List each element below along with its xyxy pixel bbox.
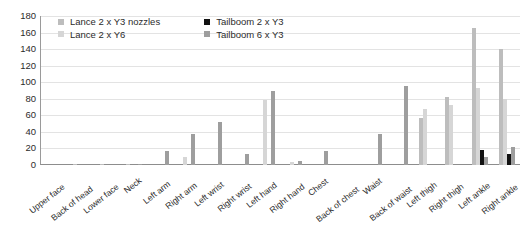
legend-item[interactable]: Tailboom 6 x Y3 xyxy=(204,30,283,40)
bar xyxy=(324,151,328,165)
bar xyxy=(449,105,453,165)
bar xyxy=(378,134,382,165)
bar-group xyxy=(493,16,520,165)
legend-item[interactable]: Tailboom 2 x Y3 xyxy=(204,17,283,27)
bar-chart: 180160140120100806040200 Upper faceBack … xyxy=(0,0,527,232)
bar xyxy=(423,109,427,165)
y-tick-label: 180 xyxy=(20,11,36,21)
bar xyxy=(511,147,515,165)
legend-label: Tailboom 2 x Y3 xyxy=(216,17,283,27)
bar-group xyxy=(467,16,494,165)
legend-label: Tailboom 6 x Y3 xyxy=(216,30,283,40)
legend-label: Lance 2 x Y3 nozzles xyxy=(70,17,160,27)
x-label-slot: Back of chest xyxy=(334,166,361,232)
legend-swatch-icon xyxy=(204,19,210,25)
bar xyxy=(191,134,195,165)
y-tick-label: 0 xyxy=(31,160,36,170)
bar xyxy=(138,164,142,165)
bar-group xyxy=(280,16,307,165)
y-tick-label: 140 xyxy=(20,44,36,54)
bar xyxy=(298,161,302,165)
y-tick-label: 100 xyxy=(20,77,36,87)
x-axis-labels: Upper faceBack of headLower faceNeckLeft… xyxy=(41,166,520,232)
bar-group xyxy=(440,16,467,165)
x-tick-label-text: Neck xyxy=(123,176,144,195)
y-tick-label: 60 xyxy=(25,111,36,121)
bar xyxy=(245,154,249,165)
legend-item[interactable]: Lance 2 x Y6 xyxy=(58,30,160,40)
x-tick-label: Right ankle xyxy=(494,169,527,202)
bar xyxy=(290,162,294,165)
bar-group xyxy=(360,16,387,165)
y-tick-label: 160 xyxy=(20,28,36,38)
legend-swatch-icon xyxy=(58,31,64,37)
x-label-slot: Left ankle xyxy=(467,166,494,232)
y-tick-label: 20 xyxy=(25,144,36,154)
chart-legend: Lance 2 x Y3 nozzlesTailboom 2 x Y3Lance… xyxy=(58,17,284,39)
x-tick-label: Neck xyxy=(128,169,149,188)
x-tick-label-text: Chest xyxy=(307,177,330,198)
y-tick-label: 40 xyxy=(25,127,36,137)
bar xyxy=(183,157,187,165)
x-label-slot: Right hand xyxy=(280,166,307,232)
bar-group xyxy=(307,16,334,165)
bar xyxy=(165,151,169,165)
bar-group xyxy=(387,16,414,165)
bar xyxy=(100,164,104,165)
legend-item[interactable]: Lance 2 x Y3 nozzles xyxy=(58,17,160,27)
x-label-slot: Right ankle xyxy=(493,166,520,232)
legend-swatch-icon xyxy=(204,31,210,37)
y-tick-label: 80 xyxy=(25,94,36,104)
bar xyxy=(263,100,267,165)
bar xyxy=(126,164,130,165)
bar-group xyxy=(414,16,441,165)
x-tick-label-text: Waist xyxy=(361,177,383,197)
bar xyxy=(73,164,77,165)
chart-title xyxy=(0,0,527,5)
legend-swatch-icon xyxy=(58,19,64,25)
y-tick-label: 120 xyxy=(20,61,36,71)
legend-label: Lance 2 x Y6 xyxy=(70,30,125,40)
y-axis: 180160140120100806040200 xyxy=(0,16,36,165)
bar-group xyxy=(334,16,361,165)
bar xyxy=(271,91,275,166)
bar xyxy=(404,86,408,165)
x-label-slot: Lower face xyxy=(94,166,121,232)
bar xyxy=(484,157,488,165)
bar xyxy=(218,122,222,165)
